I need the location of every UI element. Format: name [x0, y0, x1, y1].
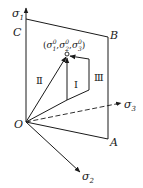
- corner-A-label: A: [109, 136, 118, 149]
- target-stress-point: [65, 52, 69, 56]
- sigma2-axis: [26, 122, 80, 172]
- path-III-label: Ⅲ: [94, 72, 104, 83]
- path-II: [26, 57, 66, 122]
- origin-label: O: [14, 118, 23, 131]
- sigma2-label: σ2: [82, 170, 95, 185]
- sigma3-axis: [26, 103, 121, 122]
- corner-B-label: B: [109, 29, 118, 42]
- sigma3-label: σ3: [124, 98, 137, 113]
- stress-path-diagram: σ1 C B A O σ3 σ2 (σ01,σ02,σ03) Ⅱ Ⅰ Ⅲ: [0, 0, 143, 188]
- path-I-label: Ⅰ: [74, 79, 78, 90]
- corner-C-label: C: [13, 26, 22, 39]
- path-III: [67, 56, 89, 100]
- target-point-label: (σ01,σ02,σ03): [43, 38, 85, 52]
- path-II-label: Ⅱ: [36, 75, 43, 86]
- sigma1-label: σ1: [12, 7, 24, 22]
